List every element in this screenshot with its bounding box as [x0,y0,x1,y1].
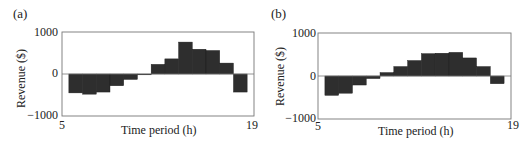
bar [449,52,463,76]
bar [165,59,179,74]
bar [408,61,422,76]
bar [339,76,353,93]
bar [394,67,408,76]
bar [220,63,234,74]
bar [421,54,435,76]
plot-area [265,0,530,143]
bar [490,76,504,84]
bar [380,73,394,76]
chart-panel-b: (b) Revenue ($) 1000 0 −1000 5 19 Time p… [265,0,530,143]
chart-panel-a: (a) Revenue ($) 1000 0 −1000 5 19 Time p… [0,0,265,143]
bar [352,76,366,85]
bar [463,58,477,76]
bar [435,53,449,76]
bar [477,67,491,76]
bar [192,49,206,74]
bar [96,74,110,92]
bar [206,50,220,74]
bar [69,74,83,93]
bar [124,74,138,79]
bar [110,74,124,86]
bar [179,42,193,74]
bar [83,74,97,94]
plot-area [0,0,265,143]
bar [151,64,165,74]
bar [233,74,247,92]
bar [325,76,339,95]
